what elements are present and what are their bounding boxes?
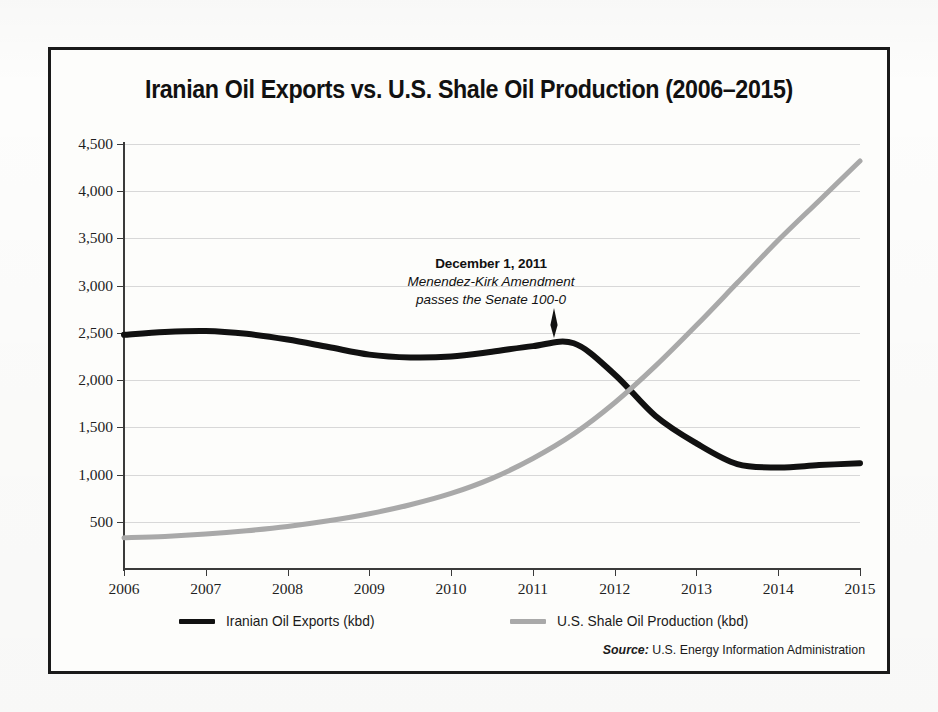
annotation-line-2: passes the Senate 100-0 xyxy=(341,291,641,309)
chart-frame: Iranian Oil Exports vs. U.S. Shale Oil P… xyxy=(48,47,890,674)
source-label: Source: xyxy=(603,642,649,657)
x-tick-mark xyxy=(778,569,779,576)
plot-area: 5001,0001,5002,0002,5003,0003,5004,0004,… xyxy=(124,144,860,569)
x-tick-label: 2014 xyxy=(763,580,794,598)
annotation-line-1: Menendez-Kirk Amendment xyxy=(341,273,641,291)
x-tick-label: 2007 xyxy=(190,580,221,598)
y-tick-label: 2,000 xyxy=(78,371,113,389)
figure-page: Iranian Oil Exports vs. U.S. Shale Oil P… xyxy=(0,0,938,712)
legend-label-iranian-oil-exports: Iranian Oil Exports (kbd) xyxy=(226,613,375,629)
legend-item-us-shale-oil-production: U.S. Shale Oil Production (kbd) xyxy=(510,613,758,629)
x-tick-label: 2010 xyxy=(436,580,467,598)
x-tick-mark xyxy=(206,569,207,576)
x-tick-label: 2013 xyxy=(681,580,712,598)
annotation-date: December 1, 2011 xyxy=(341,255,641,273)
x-tick-mark xyxy=(696,569,697,576)
y-tick-label: 4,000 xyxy=(78,182,113,200)
x-tick-mark xyxy=(533,569,534,576)
y-tick-label: 2,500 xyxy=(78,324,113,342)
series-line xyxy=(124,331,860,468)
legend-item-iranian-oil-exports: Iranian Oil Exports (kbd) xyxy=(179,613,382,629)
legend-swatch-iranian-oil-exports xyxy=(179,619,215,624)
annotation-arrow-icon xyxy=(548,308,560,338)
x-tick-label: 2012 xyxy=(599,580,630,598)
x-tick-label: 2009 xyxy=(354,580,385,598)
x-tick-label: 2015 xyxy=(845,580,876,598)
chart-legend: Iranian Oil Exports (kbd) U.S. Shale Oil… xyxy=(51,613,887,629)
y-tick-label: 1,000 xyxy=(78,466,113,484)
x-tick-label: 2006 xyxy=(109,580,140,598)
x-tick-label: 2011 xyxy=(518,580,548,598)
x-tick-mark xyxy=(615,569,616,576)
x-tick-mark xyxy=(451,569,452,576)
source-note: Source: U.S. Energy Information Administ… xyxy=(603,642,865,657)
x-tick-label: 2008 xyxy=(272,580,303,598)
x-tick-mark xyxy=(369,569,370,576)
event-annotation: December 1, 2011 Menendez-Kirk Amendment… xyxy=(341,255,641,308)
y-tick-label: 3,000 xyxy=(78,277,113,295)
legend-label-us-shale-oil-production: U.S. Shale Oil Production (kbd) xyxy=(557,613,748,629)
source-text: U.S. Energy Information Administration xyxy=(652,642,865,657)
legend-swatch-us-shale-oil-production xyxy=(510,619,546,624)
y-tick-label: 3,500 xyxy=(78,229,113,247)
y-tick-label: 4,500 xyxy=(78,135,113,153)
chart-title: Iranian Oil Exports vs. U.S. Shale Oil P… xyxy=(80,75,857,104)
x-tick-mark xyxy=(288,569,289,576)
x-tick-mark xyxy=(860,569,861,576)
series-lines xyxy=(124,144,860,569)
y-tick-label: 1,500 xyxy=(78,418,113,436)
y-tick-label: 500 xyxy=(90,513,113,531)
